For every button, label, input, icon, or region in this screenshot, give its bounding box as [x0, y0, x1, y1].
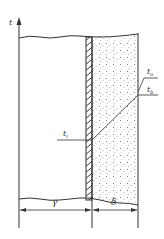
arrow-right-icon — [131, 208, 137, 212]
axis-label: t — [9, 18, 13, 27]
dimension-label-gamma: γ — [52, 197, 58, 207]
t-axis — [17, 17, 22, 228]
wall-temperature-diagram: t ta tb ti γ δ — [0, 0, 164, 239]
label-t-b: tb — [147, 85, 153, 95]
arrow-left-icon — [20, 208, 26, 212]
label-t-a: ta — [147, 67, 153, 77]
wall-layer — [86, 37, 92, 200]
dimension-delta — [93, 208, 137, 212]
label-t-i: ti — [63, 129, 68, 139]
arrow-right-icon — [85, 208, 91, 212]
dimension-label-delta: δ — [111, 197, 116, 207]
insulation-layer — [92, 34, 138, 205]
dimension-gamma — [20, 208, 91, 212]
axis-arrow-icon — [17, 17, 22, 25]
top-break-line — [19, 34, 138, 38]
arrow-left-icon — [93, 208, 99, 212]
